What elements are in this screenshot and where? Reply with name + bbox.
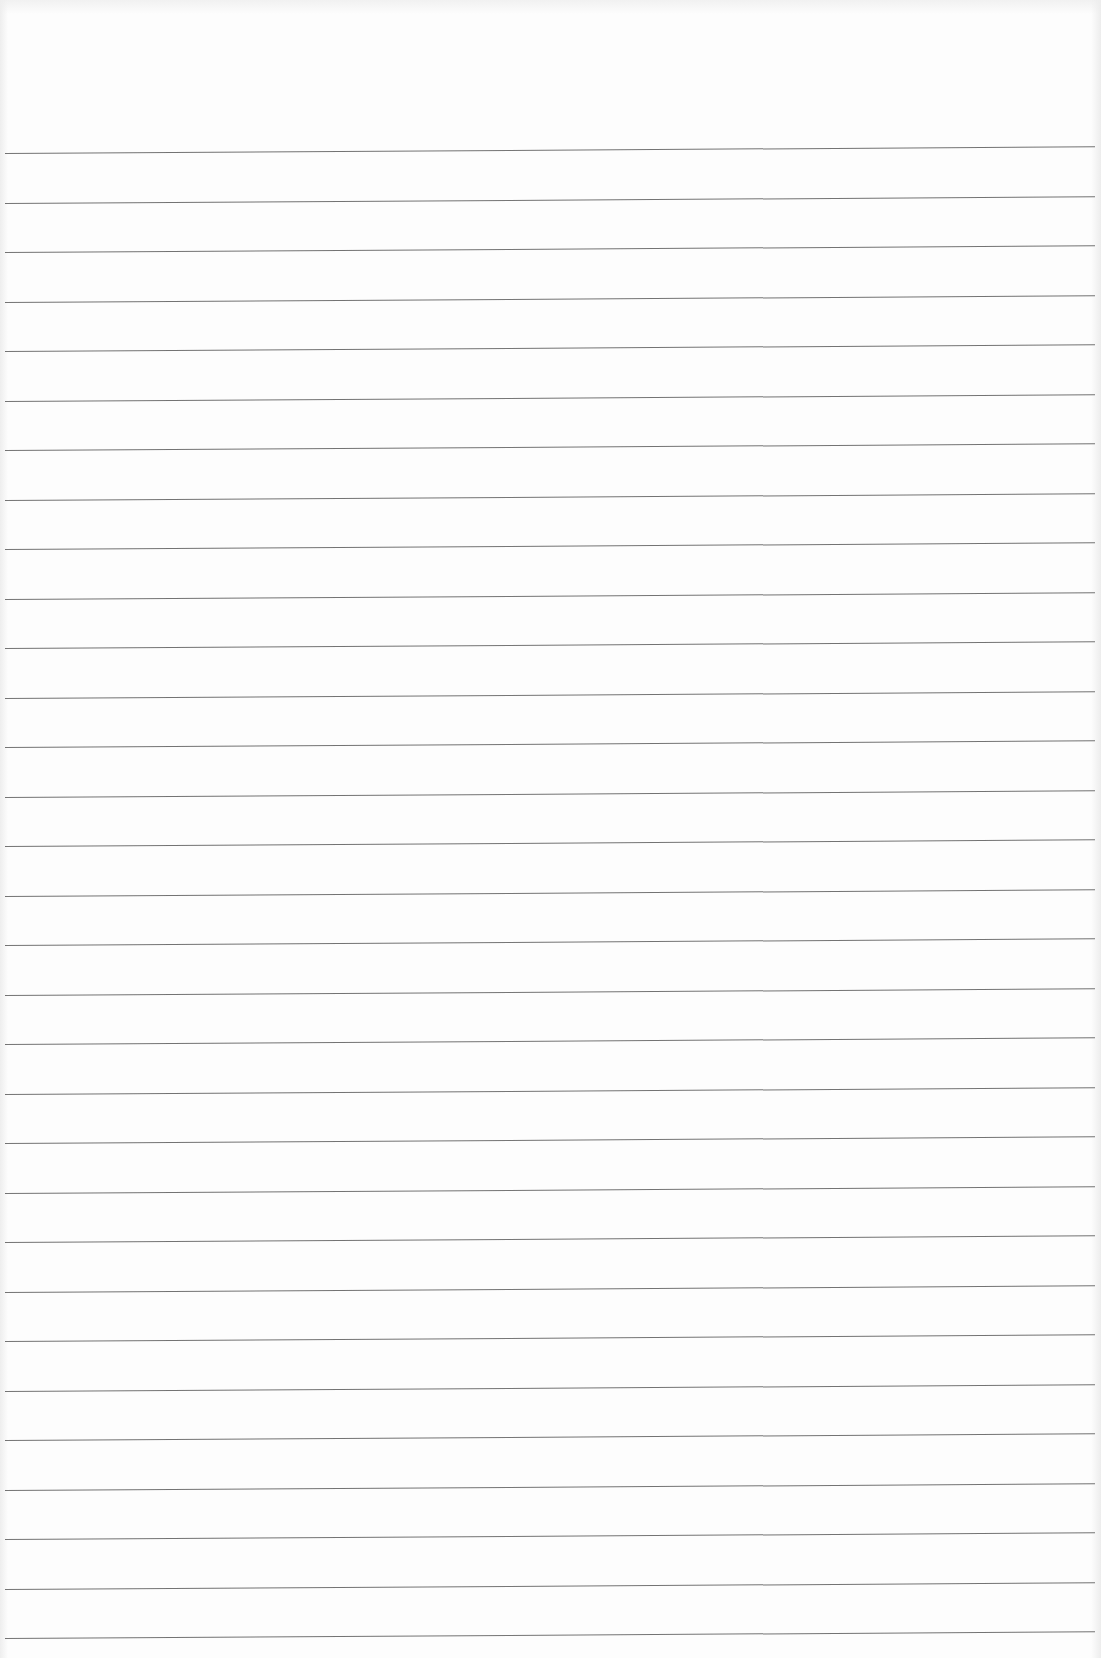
ruled-line bbox=[5, 1186, 1095, 1194]
ruled-line bbox=[5, 295, 1095, 303]
ruled-line bbox=[5, 1384, 1095, 1392]
ruled-line bbox=[5, 790, 1095, 798]
ruled-line bbox=[5, 245, 1095, 253]
ruled-line bbox=[5, 839, 1095, 847]
ruled-line bbox=[5, 1532, 1095, 1540]
ruled-line bbox=[5, 1087, 1095, 1095]
ruled-line bbox=[5, 938, 1095, 946]
ruled-line bbox=[5, 740, 1095, 748]
ruled-line bbox=[5, 1037, 1095, 1045]
page-right-edge-shadow bbox=[1091, 0, 1101, 1658]
page-top-edge-shadow bbox=[0, 0, 1101, 14]
ruled-line bbox=[5, 1285, 1095, 1293]
page-left-edge-shadow bbox=[0, 0, 8, 1658]
ruled-line bbox=[5, 988, 1095, 996]
ruled-line bbox=[5, 1582, 1095, 1590]
ruled-line bbox=[5, 1136, 1095, 1144]
ruled-line bbox=[5, 1235, 1095, 1243]
ruled-line bbox=[5, 493, 1095, 501]
ruled-line bbox=[5, 443, 1095, 451]
ruled-line bbox=[5, 889, 1095, 897]
ruled-line bbox=[5, 592, 1095, 600]
ruled-line bbox=[5, 1631, 1095, 1639]
ruled-line bbox=[5, 1433, 1095, 1441]
ruled-line bbox=[5, 394, 1095, 402]
ruled-line bbox=[5, 542, 1095, 550]
ruled-paper-page bbox=[0, 0, 1101, 1658]
ruled-line bbox=[5, 344, 1095, 352]
ruled-line bbox=[5, 641, 1095, 649]
ruled-line bbox=[5, 1334, 1095, 1342]
ruled-line bbox=[5, 146, 1095, 154]
ruled-line bbox=[5, 196, 1095, 204]
ruled-line bbox=[5, 691, 1095, 699]
ruled-line bbox=[5, 1483, 1095, 1491]
